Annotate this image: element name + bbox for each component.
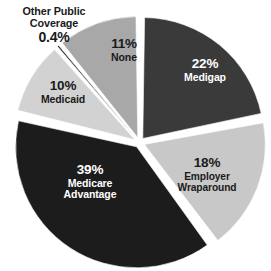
pie-chart-graphic: [0, 0, 271, 271]
pie-chart: 22% Medigap 18% Employer Wraparound 39% …: [0, 0, 271, 271]
